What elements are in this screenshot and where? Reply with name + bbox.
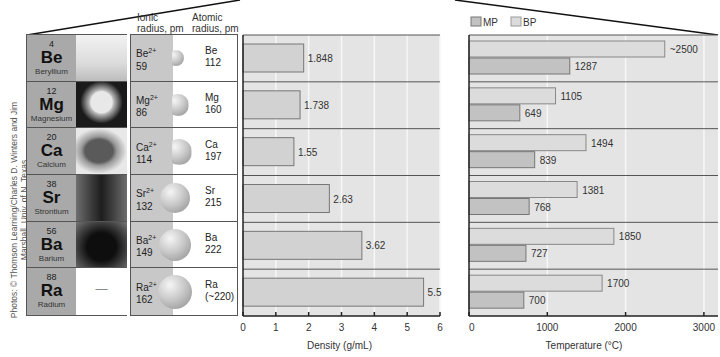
ionic-radius-value: 114 [136,154,152,165]
legend-bp-swatch [511,17,521,26]
atom-sphere-icon [166,139,192,165]
mp-value-label: 1287 [575,61,598,72]
legend-mp-swatch [471,17,481,26]
bp-value-label: 1105 [561,91,583,102]
density-bar-ca [243,138,294,166]
density-bar-mg [243,91,300,119]
density-value-label: 1.848 [308,53,333,64]
atom-symbol: Be [205,45,217,56]
ion-charge: 2+ [149,141,157,148]
element-symbol: Sr [27,189,76,207]
ion-charge: 2+ [148,47,156,54]
bp-value-label: ~2500 [670,44,699,55]
atomic-radius-label: Mg160 [205,92,222,116]
element-cell-beryllium: 4BeBeryllium [27,35,76,82]
radius-row-ca: Ca2+114Ca197 [130,128,238,175]
density-chart: 1.8481.7381.552.633.625.50123456Density … [238,30,448,357]
bp-bar-ba [469,228,614,244]
bp-bar-ca [469,135,586,151]
density-value-label: 3.62 [366,240,386,251]
x-tick-label: 4 [372,322,378,333]
ion-symbol: Ra [136,282,149,293]
ion-symbol: Mg [136,95,150,106]
legend-mp-label: MP [483,17,498,28]
atom-symbol: Ca [205,139,218,150]
atomic-radius-label: Sr215 [205,185,222,209]
atomic-radius-value: 215 [205,197,222,208]
temperature-axis-title: Temperature (°C) [546,340,623,351]
ion-symbol: Ca [136,142,149,153]
mp-value-label: 649 [525,108,542,119]
element-name: Beryllium [27,67,76,77]
mp-value-label: 700 [529,295,546,306]
bp-bar-sr [469,182,577,198]
element-name: Barium [27,254,76,264]
atom-sphere-icon [158,275,192,309]
bp-bar-mg [469,88,556,104]
density-bar-sr [243,185,329,213]
atomic-radius-value: (~220) [205,291,234,302]
atom-sphere-icon [167,94,189,116]
mp-bar-be [469,58,570,74]
density-value-label: 1.738 [304,100,329,111]
density-bar-ba [243,231,362,259]
ion-charge: 2+ [150,94,158,101]
atomic-radius-label: Ba222 [205,232,222,256]
ion-symbol: Ba [136,235,148,246]
mp-value-label: 727 [531,248,548,259]
atom-symbol: Ra [205,279,218,290]
density-value-label: 1.55 [298,147,318,158]
atomic-radius-label: Ca197 [205,139,222,163]
x-tick-label: 3 [339,322,345,333]
atomic-radius-header: Atomic radius, pm [192,12,239,34]
x-tick-label: 1000 [536,322,559,333]
mp-bar-ca [469,152,535,168]
ionic-radius-label: Mg2+86 [136,92,158,119]
ionic-radius-value: 59 [136,61,147,72]
density-value-label: 5.5 [428,287,442,298]
element-symbol: Ba [27,236,76,254]
element-cell-barium: 56BaBarium [27,222,76,269]
radius-row-mg: Mg2+86Mg160 [130,82,238,129]
x-tick-label: 0 [240,322,246,333]
ionic-radius-value: 86 [136,107,147,118]
radius-row-sr: Sr2+132Sr215 [130,175,238,222]
atomic-radius-value: 222 [205,244,222,255]
radius-row-ba: Ba2+149Ba222 [130,222,238,269]
ionic-radius-header-line2: radius, pm [137,23,184,34]
density-axis-title: Density (g/mL) [307,340,372,351]
x-tick-label: 6 [437,322,443,333]
element-symbol: Ra [27,282,76,300]
bp-value-label: 1381 [582,185,605,196]
temperature-chart: MPBP~25001287110564914948391381768185072… [460,10,720,357]
bp-value-label: 1700 [607,278,630,289]
atomic-radius-value: 197 [205,151,222,162]
atom-symbol: Ba [205,232,217,243]
x-tick-label: 5 [404,322,410,333]
ionic-radius-label: Ba2+149 [136,232,156,259]
atomic-radius-value: 160 [205,104,222,115]
mp-bar-ba [469,245,526,261]
ion-symbol: Sr [136,189,146,200]
radius-row-be: Be2+59Be112 [130,35,238,82]
element-cell-magnesium: 12MgMagnesium [27,82,76,129]
atomic-radius-label: Ra(~220) [205,279,234,303]
ionic-radius-label: Ra2+162 [136,279,157,306]
element-symbol: Be [27,49,76,67]
element-photo-barium [76,222,127,269]
ionic-radius-value: 149 [136,247,153,258]
element-name: Strontium [27,207,76,217]
x-tick-label: 2 [306,322,312,333]
ionic-radius-header: Ionic radius, pm [137,12,184,34]
ion-charge: 2+ [149,281,157,288]
ionic-radius-value: 162 [136,294,153,305]
ionic-radius-label: Be2+59 [136,45,156,72]
ion-symbol: Be [136,49,148,60]
bp-bar-ra [469,275,602,291]
radius-row-ra: Ra2+162Ra(~220) [130,268,238,315]
no-photo-dash: — [76,282,127,296]
atomic-radius-header-line2: radius, pm [192,23,239,34]
x-tick-label: 3000 [693,322,716,333]
atom-symbol: Mg [205,92,219,103]
atom-symbol: Sr [205,185,215,196]
